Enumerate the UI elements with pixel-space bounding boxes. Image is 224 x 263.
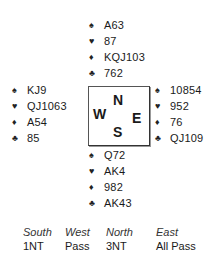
- clipped-top-text: [55, 0, 215, 4]
- east-spades: 10854: [170, 82, 202, 98]
- heart-icon: ♥: [12, 98, 27, 114]
- bid-south: 1NT: [23, 240, 65, 252]
- east-clubs: QJ109: [170, 130, 203, 146]
- east-hand: ♠10854 ♥952 ♦76 ♣QJ109: [155, 82, 203, 146]
- compass-east: E: [132, 110, 141, 126]
- bidding-header-south: South: [23, 226, 65, 238]
- spade-icon: ♠: [89, 147, 104, 163]
- compass-box: N W E S: [88, 86, 150, 146]
- south-hand: ♠Q72 ♥AK4 ♦982 ♣AK43: [89, 147, 132, 211]
- west-clubs: 85: [27, 130, 40, 146]
- east-diamonds: 76: [170, 114, 183, 130]
- club-icon: ♣: [89, 195, 104, 211]
- south-diamonds: 982: [104, 179, 123, 195]
- heart-icon: ♥: [89, 163, 104, 179]
- south-spades: Q72: [104, 147, 125, 163]
- bidding-header-west: West: [65, 226, 106, 238]
- heart-icon: ♥: [89, 33, 104, 49]
- west-diamonds: A54: [27, 114, 47, 130]
- north-hand: ♠A63 ♥87 ♦KQJ103 ♣762: [89, 17, 145, 81]
- north-hearts: 87: [104, 33, 117, 49]
- bidding-table: South West North East 1NT Pass 3NT All P…: [23, 226, 206, 252]
- spade-icon: ♠: [155, 82, 170, 98]
- north-diamonds: KQJ103: [104, 49, 145, 65]
- bidding-header-east: East: [156, 226, 206, 238]
- east-hearts: 952: [170, 98, 189, 114]
- west-hearts: QJ1063: [27, 98, 67, 114]
- club-icon: ♣: [155, 130, 170, 146]
- diamond-icon: ♦: [155, 114, 170, 130]
- club-icon: ♣: [12, 130, 27, 146]
- bidding-header-north: North: [106, 226, 156, 238]
- north-clubs: 762: [104, 65, 123, 81]
- north-spades: A63: [104, 17, 124, 33]
- bid-east: All Pass: [156, 240, 206, 252]
- west-hand: ♠KJ9 ♥QJ1063 ♦A54 ♣85: [12, 82, 67, 146]
- south-clubs: AK43: [104, 195, 132, 211]
- spade-icon: ♠: [89, 17, 104, 33]
- south-hearts: AK4: [104, 163, 125, 179]
- diamond-icon: ♦: [89, 49, 104, 65]
- bid-west: Pass: [65, 240, 106, 252]
- west-spades: KJ9: [27, 82, 47, 98]
- heart-icon: ♥: [155, 98, 170, 114]
- compass-south: S: [113, 124, 122, 140]
- spade-icon: ♠: [12, 82, 27, 98]
- club-icon: ♣: [89, 65, 104, 81]
- compass-north: N: [113, 92, 123, 108]
- compass-west: W: [93, 106, 106, 122]
- bid-north: 3NT: [106, 240, 156, 252]
- diamond-icon: ♦: [89, 179, 104, 195]
- diamond-icon: ♦: [12, 114, 27, 130]
